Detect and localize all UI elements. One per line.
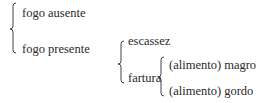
node-fogo-ausente: fogo ausente bbox=[22, 6, 86, 20]
brace-level-1 bbox=[10, 3, 16, 53]
node-alimento-gordo: (alimento) gordo bbox=[169, 84, 253, 98]
node-fartura: fartura bbox=[128, 71, 161, 85]
brace-level-2 bbox=[118, 41, 124, 83]
node-fogo-presente: fogo presente bbox=[22, 42, 90, 56]
node-escassez: escassez bbox=[128, 34, 170, 48]
node-alimento-magro: (alimento) magro bbox=[169, 58, 256, 72]
